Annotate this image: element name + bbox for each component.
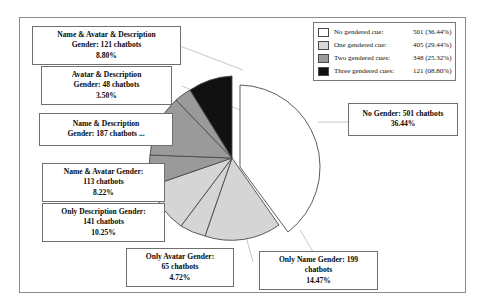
callout-line-1: Only Description Gender: <box>47 207 160 217</box>
callout-name-avatar: Name & Avatar Gender: 113 chatbots 8.22% <box>42 163 165 202</box>
legend-value-two-cues: 348 (25.32%) <box>413 54 452 63</box>
callout-line-2: Gender: 187 chatbots ... <box>44 129 168 139</box>
callout-line-3: 8.22% <box>47 188 160 198</box>
callout-no-gender: No Gender: 501 chatbots 36.44% <box>348 103 458 136</box>
callout-line-1: Only Name Gender: 199 <box>264 255 373 265</box>
callout-line-3: 8.80% <box>37 51 176 61</box>
legend-label-two-cues: Two gendered cues: <box>334 54 413 63</box>
legend-value-three-cues: 121 (08.80%) <box>413 67 452 76</box>
legend-label-three-cues: Three gendered cues: <box>334 67 413 76</box>
callout-line-3: 3.50% <box>46 91 167 101</box>
callout-line-2: 65 chatbots <box>131 262 229 272</box>
legend-value-one-cue: 405 (29.44%) <box>413 41 452 50</box>
callout-line-1: Name & Description <box>44 119 168 129</box>
callout-line-2: 36.44% <box>353 119 453 129</box>
chart-canvas: No gendered cue: 501 (36.44%) One gender… <box>0 0 486 308</box>
callout-name-description: Name & Description Gender: 187 chatbots … <box>39 113 173 146</box>
legend-row-no-cue: No gendered cue: 501 (36.44%) <box>318 26 451 38</box>
callout-line-1: Avatar & Description <box>46 70 167 80</box>
callout-line-3: 14.47% <box>264 276 373 286</box>
legend-row-one-cue: One gendered cue: 405 (29.44%) <box>318 39 451 51</box>
callout-only-avatar: Only Avatar Gender: 65 chatbots 4.72% <box>126 248 234 287</box>
callout-only-name: Only Name Gender: 199 chatbots 14.47% <box>259 251 378 290</box>
legend-value-no-cue: 501 (36.44%) <box>413 28 452 37</box>
callout-line-2: 113 chatbots <box>47 177 160 187</box>
legend-swatch-two-cues <box>318 54 329 63</box>
callout-avatar-description: Avatar & Description Gender: 48 chatbots… <box>41 66 172 105</box>
callout-line-3: 10.25% <box>47 228 160 238</box>
legend-row-three-cues: Three gendered cues: 121 (08.80%) <box>318 65 451 77</box>
callout-line-1: Only Avatar Gender: <box>131 252 229 262</box>
legend: No gendered cue: 501 (36.44%) One gender… <box>313 22 456 81</box>
callout-only-description: Only Description Gender: 141 chatbots 10… <box>42 203 165 242</box>
legend-label-one-cue: One gendered cue: <box>334 41 413 50</box>
callout-line-3: 4.72% <box>131 273 229 283</box>
callout-line-2: Gender: 121 chatbots <box>37 40 176 50</box>
callout-line-2: 141 chatbots <box>47 217 160 227</box>
legend-swatch-one-cue <box>318 41 329 50</box>
callout-line-2: Gender: 48 chatbots <box>46 80 167 90</box>
legend-swatch-three-cues <box>318 67 329 76</box>
callout-line-1: Name & Avatar Gender: <box>47 167 160 177</box>
legend-swatch-no-cue <box>318 28 329 37</box>
legend-row-two-cues: Two gendered cues: 348 (25.32%) <box>318 52 451 64</box>
callout-name-avatar-description: Name & Avatar & Description Gender: 121 … <box>32 26 181 65</box>
callout-line-1: No Gender: 501 chatbots <box>353 109 453 119</box>
callout-line-1: Name & Avatar & Description <box>37 30 176 40</box>
legend-label-no-cue: No gendered cue: <box>334 28 413 37</box>
callout-line-2: chatbots <box>264 265 373 275</box>
